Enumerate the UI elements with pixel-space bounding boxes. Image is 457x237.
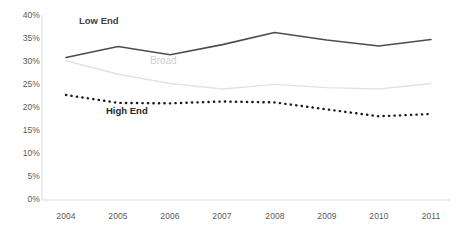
axis-lines bbox=[42, 15, 451, 200]
series-line-high-end bbox=[66, 95, 431, 116]
series-line-low-end bbox=[66, 33, 431, 58]
plot-area bbox=[0, 0, 457, 237]
series-group bbox=[66, 33, 431, 117]
chart-container: 40% 35% 30% 25% 20% 15% 10% 5% 0% 2004 2… bbox=[0, 0, 457, 237]
series-line-broad bbox=[66, 61, 431, 89]
